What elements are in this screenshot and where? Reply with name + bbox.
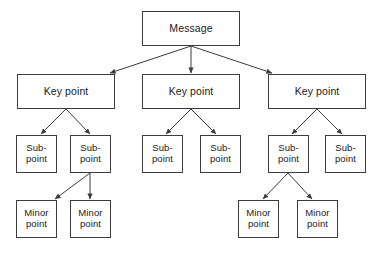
node-label: Minor point	[24, 208, 48, 230]
node-label: Minor point	[78, 208, 102, 230]
node-label: Minor point	[246, 208, 270, 230]
node-label: Key point	[169, 85, 214, 97]
connector-arrow	[191, 46, 272, 73]
connector-arrow	[166, 109, 191, 134]
node-label: Sub- point	[152, 143, 173, 165]
node-label: Sub- point	[278, 143, 299, 165]
diagram-canvas: MessageKey pointKey pointKey pointSub- p…	[0, 0, 380, 254]
node-sub5[interactable]: Sub- point	[268, 135, 309, 173]
node-minor2[interactable]: Minor point	[70, 200, 111, 238]
node-minor1[interactable]: Minor point	[16, 200, 57, 238]
connector-arrow	[191, 109, 216, 134]
node-key1[interactable]: Key point	[17, 74, 115, 109]
node-minor3[interactable]: Minor point	[238, 200, 279, 238]
connector-arrow	[66, 109, 90, 134]
connector-arrow	[317, 109, 342, 134]
node-minor4[interactable]: Minor point	[297, 200, 338, 238]
connector-arrow	[292, 109, 317, 134]
node-label: Sub- point	[335, 143, 356, 165]
node-sub1[interactable]: Sub- point	[16, 135, 57, 173]
node-message[interactable]: Message	[142, 11, 240, 46]
node-label: Key point	[295, 85, 340, 97]
node-sub2[interactable]: Sub- point	[70, 135, 111, 173]
edge-group	[41, 46, 342, 199]
node-label: Sub- point	[26, 143, 47, 165]
node-label: Minor point	[305, 208, 329, 230]
connector-arrow	[263, 173, 288, 199]
node-key3[interactable]: Key point	[268, 74, 366, 109]
node-sub4[interactable]: Sub- point	[200, 135, 241, 173]
node-label: Sub- point	[210, 143, 231, 165]
connector-arrow	[110, 46, 191, 73]
node-sub6[interactable]: Sub- point	[325, 135, 366, 173]
node-label: Message	[169, 22, 212, 34]
node-sub3[interactable]: Sub- point	[142, 135, 183, 173]
node-label: Key point	[44, 85, 89, 97]
connector-arrow	[41, 109, 66, 134]
connector-arrow	[288, 173, 312, 199]
node-key2[interactable]: Key point	[142, 74, 240, 109]
node-label: Sub- point	[80, 143, 101, 165]
connector-arrow	[55, 173, 90, 199]
